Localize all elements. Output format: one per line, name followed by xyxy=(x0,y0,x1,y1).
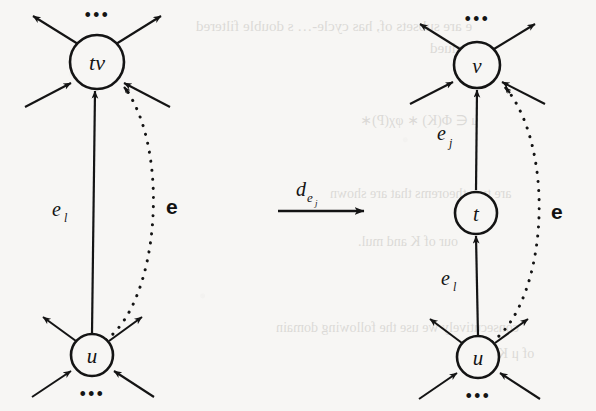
edge-label-ej-right: e j xyxy=(437,122,453,150)
right-graph: v t u ••• ••• e j e l e xyxy=(410,8,563,407)
node-u-left-label: u xyxy=(87,344,98,368)
ellipsis-above-tv: ••• xyxy=(84,4,110,26)
arrow-u-in-lowerleft xyxy=(32,371,71,397)
figure-canvas: e are subsets of, has cycle-… s double f… xyxy=(0,0,596,411)
node-tv-label: tv xyxy=(89,50,105,75)
arrow-out-upleft xyxy=(33,16,78,44)
node-u-right-label: u xyxy=(473,346,484,370)
edge-label-el-left-base: e xyxy=(52,198,61,220)
transform-arrow-label-subsub: j xyxy=(314,198,318,208)
transform-arrow-label-base: d xyxy=(296,178,307,200)
left-graph: tv u ••• ••• e l e xyxy=(25,4,178,405)
edge-u-to-tv xyxy=(92,91,95,334)
arrow-v-in-lowerright xyxy=(502,82,545,104)
edge-label-el-right: e l xyxy=(441,267,457,294)
edge-label-el-left-sub: l xyxy=(64,211,68,225)
edge-label-e-left: e xyxy=(166,195,178,218)
edge-label-el-right-base: e xyxy=(441,267,450,289)
transform-arrow-label-sub: e xyxy=(307,190,313,205)
arrow-v-out-upleft xyxy=(420,24,460,49)
node-v-label: v xyxy=(472,54,482,78)
arrow-v-out-upright xyxy=(494,24,535,49)
arrow-v-in-lowerleft xyxy=(410,82,453,104)
ellipsis-below-u-left: ••• xyxy=(79,383,105,405)
arrow-u-in-lowerright xyxy=(114,371,154,397)
arrow-in-lowerleft xyxy=(25,83,71,107)
dotted-edge-u-to-v xyxy=(492,88,539,342)
edge-label-ej-sub: j xyxy=(447,136,453,150)
transform-arrow-group: d e j xyxy=(278,178,364,211)
arrow-in-lowerright xyxy=(124,83,170,107)
ellipsis-below-u-right: ••• xyxy=(465,385,491,407)
edge-label-el-right-sub: l xyxy=(453,280,457,294)
arrow-ur-out-upleft xyxy=(430,319,462,343)
diagram-svg: tv u ••• ••• e l e d e j xyxy=(0,0,596,411)
arrow-ur-in-lowerright xyxy=(500,373,540,399)
ellipsis-above-v: ••• xyxy=(464,8,490,30)
edge-label-el-left: e l xyxy=(52,198,68,225)
edge-t-to-v xyxy=(476,90,477,190)
arrow-out-upright xyxy=(116,16,161,44)
edge-label-e-right: e xyxy=(551,200,563,223)
dotted-edge-arrowhead xyxy=(124,87,129,93)
dotted-edge-u-to-tv xyxy=(106,88,153,340)
arrow-u-out-upleft xyxy=(43,317,76,341)
edge-u-to-t xyxy=(476,236,478,336)
edge-label-ej-base: e xyxy=(437,122,446,144)
arrow-ur-in-lowerleft xyxy=(419,373,457,399)
